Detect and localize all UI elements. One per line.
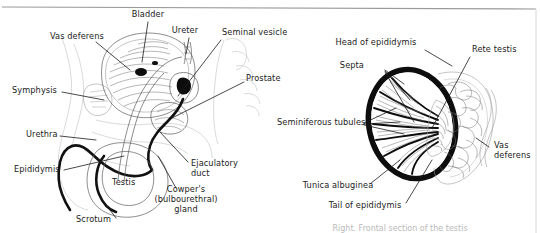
label-rete-testis: Rete testis [472,44,517,54]
label-epididymis: Epididymis [14,164,60,174]
label-ejaculatory-duct-line2: duct [191,168,210,178]
right-diagram-group [359,50,497,203]
label-seminiferous-tubules: Seminiferous tubules [277,117,365,127]
label-tail-of-epididymis: Tail of epididymis [328,200,402,210]
left-diagram-labels: Bladder Ureter Seminal vesicle Prostate … [12,9,287,224]
label-septa: Septa [340,60,364,70]
label-vas-deferens: Vas deferens [50,31,104,41]
symphysis-pubis [83,84,112,116]
bladder-mark-2 [152,61,158,65]
label-cowpers-line1: Cowper's [167,184,205,194]
label-cowpers-line2: (bulbourethral) [154,194,217,204]
bulbourethral-urethra-tube [72,145,152,176]
sacrum-vertebrae [214,38,260,144]
label-vas-deferens-right-line2: deferens [494,150,531,160]
label-ureter: Ureter [172,25,199,35]
anatomy-figure-root: Bladder Ureter Seminal vesicle Prostate … [0,0,540,233]
label-tunica-albuginea: Tunica albuginea [302,180,374,190]
leader-urethra [60,136,96,140]
label-cowpers-line3: gland [174,204,197,214]
leader-epididymis [64,156,124,170]
top-divider-rule [2,7,536,9]
label-symphysis: Symphysis [12,85,57,95]
bladder-lumen-mark [135,68,147,76]
label-prostate: Prostate [246,73,281,83]
abdominal-wall-contour [58,38,88,210]
left-diagram-group [58,22,260,218]
leader-head-of-epididymis [425,50,452,66]
label-seminal-vesicle: Seminal vesicle [222,27,287,37]
label-vas-deferens-right-line1: Vas [494,140,509,150]
label-bladder: Bladder [132,9,165,19]
label-scrotum: Scrotum [76,214,111,224]
figure-caption: Right. Frontal section of the testis [332,224,467,233]
leader-ejaculatory-duct [159,131,188,162]
label-urethra: Urethra [26,129,58,139]
penile-urethra-tube [59,146,72,210]
vas-deferens-tube-left [118,57,182,180]
label-testis: Testis [111,177,135,187]
anatomy-figure-svg: Bladder Ureter Seminal vesicle Prostate … [0,0,540,233]
perineum-contour [92,132,188,154]
label-head-of-epididymis: Head of epididymis [336,37,417,47]
label-ejaculatory-duct-line1: Ejaculatory [191,158,238,168]
seminal-vesicle-prostate [151,72,199,134]
leader-ureter [186,38,189,54]
